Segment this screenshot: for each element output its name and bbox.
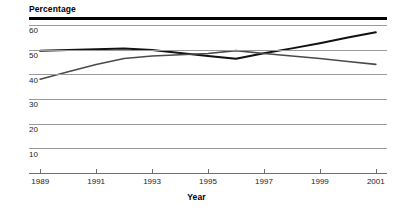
x-axis-title: Year	[0, 192, 393, 202]
x-tick-label-1991: 1991	[87, 177, 105, 186]
x-tick-mark-2001	[376, 169, 377, 173]
x-tick-label-1989: 1989	[31, 177, 49, 186]
plot-area	[29, 20, 387, 173]
series-layer	[29, 20, 387, 173]
x-tick-label-1997: 1997	[255, 177, 273, 186]
gridline-y-30	[29, 99, 387, 100]
line-chart: Percentage 102030405060 1989199119931995…	[0, 0, 393, 210]
y-axis-title: Percentage	[29, 4, 76, 14]
y-tick-label-20: 20	[29, 125, 38, 134]
x-tick-mark-1993	[152, 169, 153, 173]
y-tick-label-10: 10	[29, 150, 38, 159]
y-tick-label-30: 30	[29, 100, 38, 109]
x-tick-label-1993: 1993	[143, 177, 161, 186]
data-line-series-1	[40, 32, 376, 58]
x-tick-mark-1991	[96, 169, 97, 173]
gridline-y-40	[29, 74, 387, 75]
gridline-y-10	[29, 148, 387, 149]
x-tick-label-2001: 2001	[367, 177, 385, 186]
x-axis-line	[29, 173, 387, 174]
gridline-y-60	[29, 25, 387, 26]
gridline-y-20	[29, 124, 387, 125]
x-tick-mark-1995	[208, 169, 209, 173]
x-tick-mark-1989	[40, 169, 41, 173]
x-tick-mark-1999	[320, 169, 321, 173]
y-tick-label-40: 40	[29, 76, 38, 85]
y-tick-label-60: 60	[29, 26, 38, 35]
x-tick-label-1999: 1999	[311, 177, 329, 186]
x-tick-mark-1997	[264, 169, 265, 173]
x-tick-label-1995: 1995	[199, 177, 217, 186]
gridline-y-50	[29, 50, 387, 51]
y-tick-label-50: 50	[29, 51, 38, 60]
